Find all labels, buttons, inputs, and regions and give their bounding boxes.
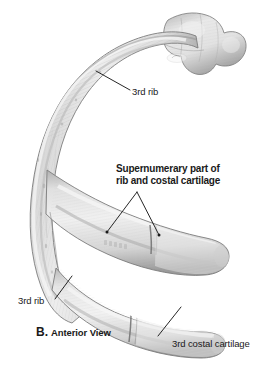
anatomy-figure: 3rd rib 3rd rib Supernumerary part of ri… — [0, 0, 260, 367]
leader-dot-supernumerary-right — [158, 234, 161, 237]
rib-head-knob — [160, 8, 252, 80]
figure-caption-text: Anterior View — [51, 327, 111, 338]
leader-dot-supernumerary-left — [106, 231, 109, 234]
figure-caption-letter: B. — [36, 325, 48, 339]
label-supernumerary-line2: rib and costal cartilage — [116, 175, 220, 187]
leader-line-3rd-rib-upper — [96, 71, 130, 90]
rib-body-group — [22, 8, 252, 366]
label-supernumerary-line1: Supernumerary part of — [116, 163, 220, 175]
label-supernumerary-part: Supernumerary part of rib and costal car… — [116, 163, 220, 187]
label-3rd-costal-cartilage: 3rd costal cartilage — [172, 338, 250, 349]
label-3rd-rib-upper: 3rd rib — [132, 86, 158, 97]
specimen-marking — [167, 54, 187, 63]
label-3rd-rib-lower: 3rd rib — [18, 295, 44, 306]
figure-caption: B. Anterior View — [36, 325, 111, 339]
